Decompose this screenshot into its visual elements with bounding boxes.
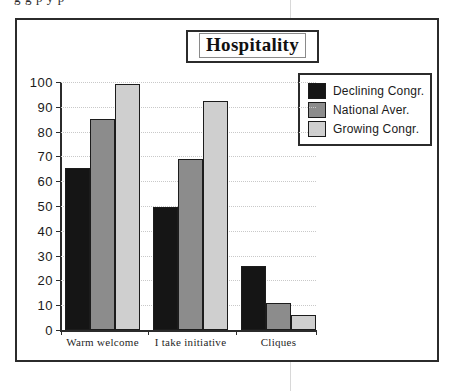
- x-axis-tick-mark: [148, 330, 149, 335]
- y-axis-tick-label: 50: [38, 199, 53, 214]
- x-axis-tick-mark: [61, 330, 62, 335]
- page-title: Hospitality: [206, 34, 299, 56]
- y-axis-tick-label: 70: [38, 149, 53, 164]
- legend-item: Growing Congr.: [308, 119, 423, 138]
- y-axis-tick-label: 30: [38, 248, 53, 263]
- y-axis-tick-label: 80: [38, 124, 53, 139]
- x-axis-category-label: Warm welcome: [66, 336, 139, 348]
- legend-item-label: National Aver.: [333, 103, 410, 117]
- gridline: [61, 82, 316, 84]
- y-axis-tick-mark: [56, 107, 61, 108]
- y-axis-tick-mark: [56, 132, 61, 133]
- y-axis-tick-mark: [56, 280, 61, 281]
- y-axis-tick-mark: [56, 156, 61, 157]
- bar: [153, 207, 178, 330]
- cropped-text: g g p y p: [14, 0, 65, 5]
- y-axis-tick-mark: [56, 256, 61, 257]
- y-axis-tick-mark: [56, 181, 61, 182]
- bar: [178, 159, 203, 330]
- legend-item: National Aver.: [308, 100, 423, 119]
- y-axis-tick-label: 60: [38, 174, 53, 189]
- plot-region: 1009080706050403020100Warm welcomeI take…: [61, 82, 316, 330]
- bar: [90, 119, 115, 330]
- chart-legend: Declining Congr.National Aver.Growing Co…: [298, 73, 432, 146]
- y-axis-tick-mark: [56, 305, 61, 306]
- legend-item-label: Declining Congr.: [333, 84, 424, 98]
- y-axis-tick-label: 20: [38, 273, 53, 288]
- y-axis-tick-label: 10: [38, 298, 53, 313]
- gridline: [61, 107, 316, 109]
- bar: [203, 101, 228, 330]
- plot-area: 1009080706050403020100Warm welcomeI take…: [61, 82, 316, 330]
- y-axis-tick-mark: [56, 231, 61, 232]
- chart-title-inner-border: Hospitality: [199, 33, 306, 58]
- y-axis-tick-mark: [56, 82, 61, 83]
- bar: [266, 303, 291, 330]
- bar: [65, 168, 90, 330]
- chart-title-box: Hospitality: [186, 30, 319, 63]
- legend-item-label: Growing Congr.: [333, 122, 419, 136]
- figure-frame: Hospitality Declining Congr.National Ave…: [15, 18, 439, 362]
- x-axis-tick-mark: [236, 330, 237, 335]
- x-axis-tick-mark: [316, 330, 317, 335]
- x-axis-category-label: I take initiative: [155, 336, 227, 348]
- y-axis-tick-mark: [56, 206, 61, 207]
- y-axis-tick-label: 100: [30, 75, 53, 90]
- bar: [291, 315, 316, 330]
- cropped-text-above-figure: g g p y p: [0, 0, 457, 7]
- legend-item: Declining Congr.: [308, 81, 423, 100]
- x-axis-line: [60, 330, 317, 332]
- y-axis-tick-label: 0: [45, 323, 53, 338]
- x-axis-category-label: Cliques: [261, 336, 297, 348]
- bar: [115, 84, 140, 330]
- y-axis-tick-label: 90: [38, 99, 53, 114]
- bar: [241, 266, 266, 330]
- y-axis-tick-label: 40: [38, 223, 53, 238]
